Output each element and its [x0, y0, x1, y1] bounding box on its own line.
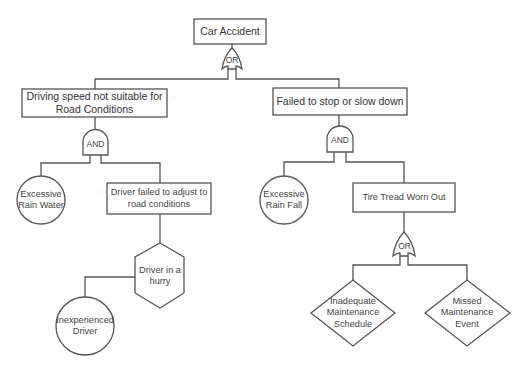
top-event-label: Car Accident: [194, 19, 266, 44]
tire-tread-label: Tire Tread Worn Out: [353, 183, 455, 212]
and-gate-right-label: AND: [327, 133, 353, 147]
failed-stop-label: Failed to stop or slow down: [273, 88, 407, 115]
inadequate-schedule-label: Inadequate Maintenance Schedule: [318, 295, 388, 331]
or-gate-tire-label: OR: [394, 240, 415, 252]
driver-failed-adjust-label: Driver failed to adjust to road conditio…: [107, 183, 211, 214]
connector-lines: [41, 44, 467, 297]
driver-hurry-label: Driver in a hurry: [135, 262, 185, 290]
rain-water-label: Excessive Rain Water: [17, 186, 65, 214]
fault-tree-diagram: Car Accident OR Driving speed not suitab…: [0, 0, 525, 371]
and-gate-left-label: AND: [83, 137, 108, 151]
missed-event-label: Missed Maintenance Event: [432, 295, 502, 331]
rain-fall-label: Excessive Rain Fall: [260, 186, 308, 214]
driving-speed-label: Driving speed not suitable for Road Cond…: [22, 89, 167, 117]
or-gate-top-label: OR: [222, 54, 242, 66]
inexperienced-driver-label: Inexperienced Driver: [56, 312, 114, 340]
